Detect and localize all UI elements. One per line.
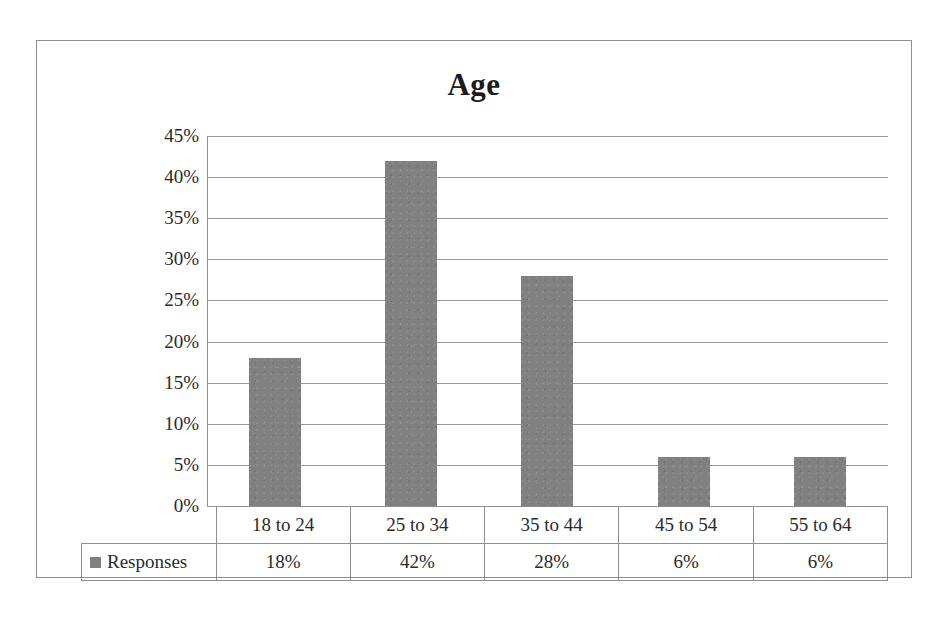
table-cell-category: 35 to 44 [485,507,619,544]
y-axis-tick-labels: 45%40%35%30%25%20%15%10%5%0% [135,136,199,506]
y-axis-tick-label: 10% [135,413,199,435]
bar [794,457,846,506]
y-axis-tick-label: 5% [135,454,199,476]
chart-frame: Age 45%40%35%30%25%20%15%10%5%0% 18 to 2… [36,40,912,578]
y-axis-tick-label: 30% [135,248,199,270]
bar [385,161,437,506]
table-cell-value: 18% [216,544,350,581]
table-row-categories: 18 to 2425 to 3435 to 4445 to 5455 to 64 [82,507,888,544]
table-cell-value: 6% [619,544,753,581]
chart-title: Age [37,67,911,103]
legend-entry-responses: Responses [82,544,217,581]
plot-area [207,136,888,506]
table-cell-category: 45 to 54 [619,507,753,544]
table-row-responses: Responses 18%42%28%6%6% [82,544,888,581]
table-cell-value: 6% [753,544,887,581]
bar-slot [752,136,888,506]
y-axis-tick-label: 20% [135,331,199,353]
table-cell-value: 42% [350,544,484,581]
chart-data-table: 18 to 2425 to 3435 to 4445 to 5455 to 64… [81,506,888,581]
legend-label: Responses [107,551,187,572]
legend-swatch-icon [90,557,101,568]
table-cell-value: 28% [485,544,619,581]
table-cell-category: 55 to 64 [753,507,887,544]
y-axis-tick-label: 25% [135,289,199,311]
bar [658,457,710,506]
bar-slot [479,136,615,506]
y-axis-tick-label: 40% [135,166,199,188]
bar-slot [343,136,479,506]
y-axis-tick-label: 45% [135,125,199,147]
table-cell-category: 25 to 34 [350,507,484,544]
bar-series-responses [207,136,888,506]
y-axis-tick-label: 15% [135,372,199,394]
bar-slot [616,136,752,506]
table-cell-category: 18 to 24 [216,507,350,544]
category-row-spacer [82,507,217,544]
y-axis-tick-label: 35% [135,207,199,229]
bar [521,276,573,506]
bar [249,358,301,506]
bar-slot [207,136,343,506]
